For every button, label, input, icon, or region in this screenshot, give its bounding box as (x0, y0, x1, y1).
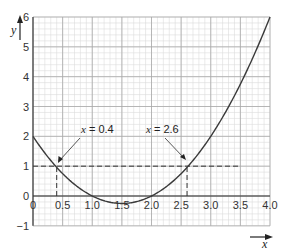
y-axis-label: y (10, 15, 23, 40)
x-tick-label: 3.0 (203, 199, 218, 211)
x-tick-label: 0 (30, 199, 36, 211)
y-tick-label: 3 (23, 101, 29, 113)
reference-lines (33, 166, 240, 196)
y-tick-label: 5 (23, 41, 29, 53)
x-tick-label: 4.0 (262, 199, 277, 211)
y-tick-label: −1 (16, 220, 29, 232)
y-tick-label: 0 (23, 190, 29, 202)
y-axis-title: y (10, 23, 17, 37)
x-tick-label: 3.5 (233, 199, 248, 211)
y-tick-label: 6 (23, 11, 29, 23)
x-tick-label: 2.5 (173, 199, 188, 211)
x-tick-label: 1.5 (114, 199, 129, 211)
x-axis-label: x (250, 234, 273, 251)
x-tick-labels: 00.51.01.52.02.53.03.54.0 (30, 199, 278, 211)
x-tick-label: 0.5 (55, 199, 70, 211)
chart: 00.51.01.52.02.53.03.54.0 −10123456 x = … (0, 0, 291, 252)
y-tick-label: 2 (23, 130, 29, 142)
annotation-x-0-4: x = 0.4 (80, 123, 114, 135)
y-tick-labels: −10123456 (16, 11, 29, 232)
x-tick-label: 1.0 (85, 199, 100, 211)
y-tick-label: 4 (23, 71, 29, 83)
x-tick-label: 2.0 (144, 199, 159, 211)
y-tick-label: 1 (23, 160, 29, 172)
x-axis-title: x (261, 237, 268, 251)
annotation-x-2-6: x = 2.6 (145, 123, 179, 135)
